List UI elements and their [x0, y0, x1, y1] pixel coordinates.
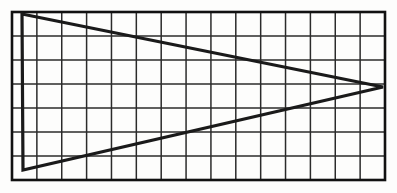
figure-container	[0, 0, 397, 193]
grid-triangle-diagram	[0, 0, 397, 193]
grid-outer-border	[12, 12, 385, 180]
grid-horizontal-lines	[12, 36, 385, 156]
triangle-shape	[22, 14, 383, 170]
